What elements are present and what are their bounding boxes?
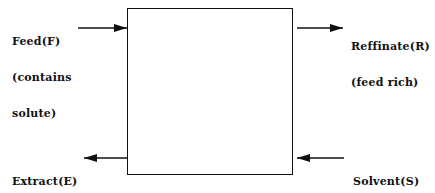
raffinate-label-line2: (feed rich): [351, 77, 430, 89]
solvent-label: Solvent(S): [353, 152, 419, 193]
raffinate-label-line1: Reffinate(R): [351, 41, 430, 53]
extract-label-line1: Extract(E): [12, 176, 78, 188]
feed-label: Feed(F) (contains solute): [12, 12, 72, 132]
raffinate-label: Reffinate(R) (feed rich): [351, 17, 430, 101]
extract-label: Extract(E) (solute rich): [12, 152, 78, 193]
feed-label-line3: solute): [12, 108, 72, 120]
feed-label-line1: Feed(F): [12, 36, 72, 48]
solvent-label-line1: Solvent(S): [353, 176, 419, 188]
feed-label-line2: (contains: [12, 72, 72, 84]
